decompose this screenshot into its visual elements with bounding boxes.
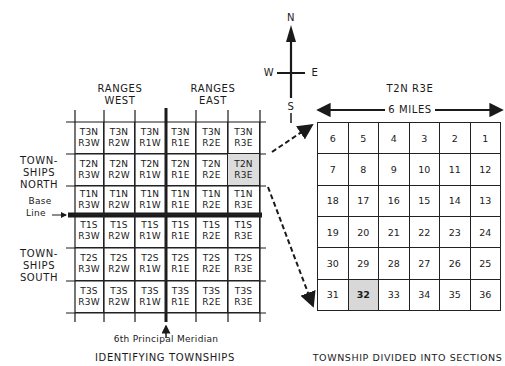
range-number: R2W xyxy=(108,138,129,149)
range-number: R2W xyxy=(108,231,129,242)
township-number: T3N xyxy=(141,127,160,138)
section-cell: 4 xyxy=(379,123,410,154)
township-number: T2N xyxy=(110,159,129,170)
left-caption: IDENTIFYING TOWNSHIPS xyxy=(60,352,270,364)
township-cell: T2NR3E xyxy=(228,154,260,186)
range-number: R2E xyxy=(202,138,220,149)
township-number: T1N xyxy=(234,189,253,200)
range-number: R3W xyxy=(78,231,99,242)
width-label: 6 MILES xyxy=(385,104,435,116)
township-number: T3S xyxy=(203,286,221,297)
township-number: T1S xyxy=(235,220,253,231)
range-number: R3W xyxy=(78,170,99,181)
section-cell: 19 xyxy=(318,217,349,248)
range-number: R2E xyxy=(202,200,220,211)
township-number: T3N xyxy=(202,127,221,138)
range-number: R3E xyxy=(234,231,252,242)
section-cell: 14 xyxy=(440,186,471,217)
range-number: R1E xyxy=(171,138,189,149)
township-grid: T3NR3WT3NR2WT3NR1WT3NR1ET3NR2ET3NR3ET2NR… xyxy=(75,122,260,313)
township-cell: T3SR1W xyxy=(135,281,166,313)
compass-south-label: S xyxy=(284,101,298,113)
compass-north-label: N xyxy=(284,12,298,24)
township-cell: T1SR2W xyxy=(104,215,135,248)
township-cell: T3NR3W xyxy=(75,122,104,154)
section-cell: 13 xyxy=(471,186,502,217)
section-cell: 30 xyxy=(318,248,349,279)
range-number: R2E xyxy=(202,170,220,181)
range-number: R2W xyxy=(108,170,129,181)
township-number: T3S xyxy=(235,286,253,297)
township-cell: T3NR1E xyxy=(166,122,196,154)
township-cell: T2SR3E xyxy=(228,248,260,281)
township-number: T3S xyxy=(172,286,190,297)
range-number: R2E xyxy=(202,231,220,242)
range-number: R1W xyxy=(139,297,160,308)
township-number: T1S xyxy=(172,220,190,231)
township-cell: T2SR1W xyxy=(135,248,166,281)
township-number: T1S xyxy=(141,220,159,231)
township-number: T1S xyxy=(203,220,221,231)
base-line-label: Base Line xyxy=(22,195,58,219)
section-cell: 10 xyxy=(410,154,441,185)
range-number: R2E xyxy=(202,264,220,275)
township-number: T2S xyxy=(110,253,128,264)
township-cell: T2SR2W xyxy=(104,248,135,281)
township-cell: T3SR2W xyxy=(104,281,135,313)
township-number: T2S xyxy=(80,253,98,264)
township-cell: T2NR2E xyxy=(196,154,228,186)
township-cell: T2NR3W xyxy=(75,154,104,186)
township-cell: T1SR1E xyxy=(166,215,196,248)
township-cell: T1SR2E xyxy=(196,215,228,248)
section-cell: 12 xyxy=(471,154,502,185)
section-cell: 24 xyxy=(471,217,502,248)
township-cell: T2NR2W xyxy=(104,154,135,186)
section-cell: 11 xyxy=(440,154,471,185)
range-number: R1E xyxy=(171,297,189,308)
range-number: R3W xyxy=(78,138,99,149)
township-cell: T1SR3W xyxy=(75,215,104,248)
township-number: T2N xyxy=(80,159,99,170)
township-cell: T2SR1E xyxy=(166,248,196,281)
township-number: T1S xyxy=(80,220,98,231)
township-cell: T1NR3E xyxy=(228,186,260,215)
township-cell: T1SR3E xyxy=(228,215,260,248)
compass-east-label: E xyxy=(308,67,322,79)
township-number: T3N xyxy=(80,127,99,138)
range-number: R3E xyxy=(234,200,252,211)
section-cell: 21 xyxy=(379,217,410,248)
township-cell: T2NR1W xyxy=(135,154,166,186)
section-cell: 25 xyxy=(471,248,502,279)
section-cell: 23 xyxy=(440,217,471,248)
range-number: R1W xyxy=(139,200,160,211)
township-title: T2N R3E xyxy=(370,83,450,95)
township-cell: T3NR2W xyxy=(104,122,135,154)
township-number: T1N xyxy=(80,189,99,200)
township-cell: T1NR1E xyxy=(166,186,196,215)
range-number: R2E xyxy=(202,297,220,308)
section-cell: 27 xyxy=(410,248,441,279)
range-number: R1W xyxy=(139,264,160,275)
range-number: R3E xyxy=(234,138,252,149)
township-number: T2S xyxy=(203,253,221,264)
township-cell: T2SR3W xyxy=(75,248,104,281)
section-cell: 9 xyxy=(379,154,410,185)
section-cell: 2 xyxy=(440,123,471,154)
section-cell: 17 xyxy=(349,186,380,217)
meridian-label: 6th Principal Meridian xyxy=(96,334,236,345)
township-number: T3N xyxy=(171,127,190,138)
township-number: T2N xyxy=(141,159,160,170)
township-number: T2N xyxy=(234,159,253,170)
township-cell: T1NR2W xyxy=(104,186,135,215)
section-cell: 36 xyxy=(471,280,502,311)
compass-west-label: W xyxy=(262,67,276,79)
range-number: R2W xyxy=(108,200,129,211)
section-cell: 15 xyxy=(410,186,441,217)
section-cell: 16 xyxy=(379,186,410,217)
section-cell: 7 xyxy=(318,154,349,185)
range-number: R1W xyxy=(139,138,160,149)
range-number: R1E xyxy=(171,264,189,275)
section-grid: 6543217891011121817161514131920212223243… xyxy=(317,122,501,311)
section-cell: 8 xyxy=(349,154,380,185)
section-cell: 31 xyxy=(318,280,349,311)
